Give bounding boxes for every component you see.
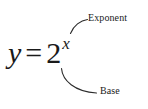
exponent-label: Exponent xyxy=(88,13,127,23)
equation-base-number: 2 xyxy=(46,36,61,69)
equation-equals-sign: = xyxy=(21,36,46,69)
equation-left-variable: y xyxy=(8,36,21,69)
exponent-leader-line xyxy=(71,20,88,34)
base-leader-line xyxy=(62,69,97,94)
base-label: Base xyxy=(100,86,120,96)
equation-exponent-variable: x xyxy=(62,34,70,53)
figure-canvas: y=2x Exponent Base xyxy=(0,0,148,109)
equation-expression: y=2x xyxy=(8,38,69,68)
